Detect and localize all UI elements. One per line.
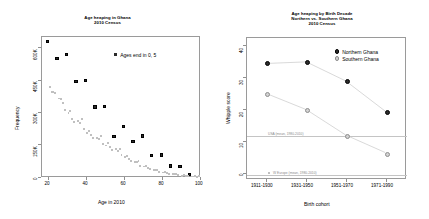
left-data-point bbox=[119, 148, 121, 150]
left-y-tick-label-0: 0 bbox=[33, 177, 38, 180]
right-y-tick-label-4: 40 bbox=[239, 48, 244, 53]
left-data-point bbox=[178, 165, 181, 168]
right-data-point bbox=[265, 92, 270, 97]
left-legend-item: Ages end in 0, 5 bbox=[114, 51, 156, 58]
left-y-tick-label-1: 150K bbox=[33, 146, 38, 157]
right-chart-subtitle2: 2010 Census bbox=[215, 21, 429, 26]
left-data-point bbox=[177, 174, 179, 176]
right-reference-line bbox=[247, 175, 407, 176]
right-x-tick-label-1: 1931-1950 bbox=[291, 183, 313, 188]
left-data-point bbox=[109, 146, 111, 148]
right-legend-label: Northern Ghana bbox=[342, 49, 378, 55]
left-data-point bbox=[121, 154, 123, 156]
left-data-point bbox=[65, 53, 68, 56]
left-data-point bbox=[84, 79, 87, 82]
left-x-tick-label-4: 100 bbox=[195, 181, 203, 186]
left-y-tick-label-4: 600K bbox=[33, 49, 38, 60]
left-y-axis-title: Frequency bbox=[14, 106, 20, 130]
left-legend-marker-icon bbox=[114, 53, 117, 56]
left-data-point bbox=[100, 135, 102, 137]
right-y-tick-label-0: 0 bbox=[239, 173, 244, 176]
left-y-tick-label-2: 300K bbox=[33, 113, 38, 124]
left-x-axis-title: Age in 2010 bbox=[98, 199, 125, 205]
right-data-point bbox=[385, 152, 390, 157]
left-data-point bbox=[49, 86, 51, 88]
right-y-axis-title: Whipple score bbox=[225, 92, 231, 124]
left-chart-title-block: Age heaping in Ghana 2010 Census bbox=[0, 15, 215, 25]
left-data-point bbox=[187, 175, 189, 177]
left-data-point bbox=[54, 92, 56, 94]
left-data-point bbox=[103, 105, 106, 108]
left-data-point bbox=[168, 173, 170, 175]
left-data-point bbox=[169, 164, 172, 167]
right-y-tick-label-2: 20 bbox=[239, 112, 244, 117]
chart-panel-age-heaping-scatter: Age heaping in Ghana 2010 Census Frequen… bbox=[0, 0, 215, 219]
left-data-point bbox=[92, 137, 94, 139]
left-data-point bbox=[81, 118, 83, 120]
left-data-point bbox=[112, 135, 115, 138]
left-data-point bbox=[73, 121, 75, 123]
right-series-line bbox=[267, 62, 386, 111]
left-y-tick-0 bbox=[38, 177, 41, 178]
right-reference-line bbox=[247, 136, 407, 137]
right-data-point bbox=[305, 60, 310, 65]
left-x-tick-4 bbox=[200, 177, 201, 180]
right-x-tick-0 bbox=[266, 179, 267, 182]
right-reference-label: USA (mean, 1980-2010) bbox=[268, 132, 304, 136]
left-data-point bbox=[71, 118, 73, 120]
right-chart-title-block: Age heaping by Birth Decade Northern vs.… bbox=[215, 11, 429, 26]
left-x-tick-1 bbox=[86, 177, 87, 180]
left-data-point bbox=[158, 171, 160, 173]
left-data-point bbox=[93, 105, 96, 108]
left-data-point bbox=[117, 150, 119, 152]
left-data-point bbox=[46, 40, 49, 43]
left-x-tick-label-2: 60 bbox=[121, 181, 126, 186]
left-data-point bbox=[138, 160, 140, 162]
left-x-tick-label-0: 20 bbox=[45, 181, 50, 186]
left-data-point bbox=[79, 122, 81, 124]
right-reference-label: W Europe (mean, 1980-2010) bbox=[273, 171, 317, 175]
right-y-tick-label-1: 10 bbox=[239, 143, 244, 148]
left-data-point bbox=[130, 160, 132, 162]
left-data-point bbox=[86, 132, 88, 134]
right-plot-area: USA (mean, 1980-2010)W Europe (mean, 198… bbox=[246, 37, 406, 179]
right-data-point bbox=[345, 79, 350, 84]
left-data-point bbox=[60, 98, 62, 100]
right-data-point bbox=[385, 110, 390, 115]
left-data-point bbox=[74, 80, 77, 83]
left-data-point bbox=[141, 134, 144, 137]
right-x-tick-3 bbox=[386, 179, 387, 182]
left-x-tick-label-1: 40 bbox=[83, 181, 88, 186]
left-data-point bbox=[98, 138, 100, 140]
left-data-point bbox=[83, 128, 85, 130]
right-x-axis-title: Birth cohort bbox=[304, 201, 330, 207]
right-x-tick-1 bbox=[306, 179, 307, 182]
figure-root: Age heaping in Ghana 2010 Census Frequen… bbox=[0, 0, 429, 219]
right-chart-legend: Northern GhanaSouthern Ghana bbox=[335, 48, 379, 62]
right-series-lines bbox=[247, 38, 405, 178]
left-data-point bbox=[64, 109, 66, 111]
left-x-tick-3 bbox=[162, 177, 163, 180]
left-data-point bbox=[102, 143, 104, 145]
left-y-tick-label-3: 450K bbox=[33, 81, 38, 92]
left-chart-subtitle: 2010 Census bbox=[0, 20, 215, 25]
left-data-point bbox=[55, 57, 58, 60]
right-data-point bbox=[265, 61, 270, 66]
left-legend-label: Ages end in 0, 5 bbox=[120, 52, 156, 58]
right-series-line bbox=[267, 94, 386, 153]
right-legend-item: Northern Ghana bbox=[335, 48, 379, 55]
left-data-point bbox=[68, 112, 70, 114]
chart-panel-birth-decade: Age heaping by Birth Decade Northern vs.… bbox=[215, 0, 429, 219]
left-data-point bbox=[111, 149, 113, 151]
left-data-point bbox=[88, 130, 90, 132]
left-chart-legend: Ages end in 0, 5 bbox=[114, 51, 156, 58]
right-data-point bbox=[305, 108, 310, 113]
left-data-point bbox=[149, 168, 151, 170]
left-data-point bbox=[122, 125, 125, 128]
right-legend-marker-icon bbox=[335, 49, 339, 53]
right-legend-marker-icon bbox=[335, 56, 339, 60]
right-legend-label: Southern Ghana bbox=[342, 56, 379, 62]
right-y-tick-label-3: 30 bbox=[239, 80, 244, 85]
right-legend-item: Southern Ghana bbox=[335, 55, 379, 62]
left-x-tick-label-3: 80 bbox=[159, 181, 164, 186]
